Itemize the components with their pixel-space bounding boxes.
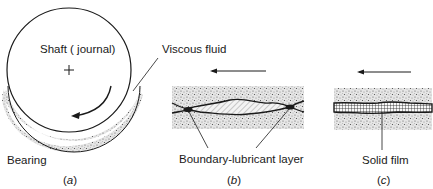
motion-arrow-left-icon (357, 70, 411, 75)
caption-a: (a) (63, 175, 77, 187)
caption-c: (c) (377, 175, 390, 187)
caption-b: (b) (227, 175, 241, 187)
shaft-label: Shaft ( journal) (40, 44, 115, 56)
fluid-leader-line (133, 58, 158, 91)
panel-a (2, 8, 158, 152)
boundary-layer-label: Boundary-lubricant layer (179, 154, 304, 166)
solid-film-layer (334, 102, 432, 114)
panel-c (334, 70, 432, 151)
solid-film-label: Solid film (362, 155, 409, 167)
fluid-label: Viscous fluid (162, 44, 226, 56)
panel-b (172, 69, 304, 149)
bearing-label: Bearing (7, 155, 47, 167)
motion-arrow-left-icon (210, 69, 266, 74)
